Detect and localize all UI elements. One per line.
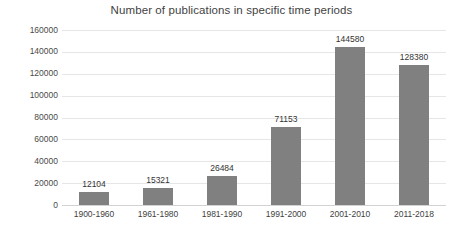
bar-value-label: 144580 [336,35,364,44]
y-axis-tick-label: 100000 [2,91,58,100]
y-axis-tick-label: 160000 [2,26,58,35]
bar-group: 144580 [318,30,382,205]
y-axis-tick-label: 0 [2,201,58,210]
chart-title: Number of publications in specific time … [0,4,463,16]
plot-area: 12104153212648471153144580128380 [62,30,446,205]
x-axis-tick-label: 1991-2000 [254,209,318,219]
bar-group: 12104 [62,30,126,205]
y-axis-tick-label: 80000 [2,113,58,122]
x-axis-tick-label: 2011-2018 [382,209,446,219]
bar-group: 15321 [126,30,190,205]
bar[interactable] [143,188,173,205]
y-axis-tick-label: 40000 [2,157,58,166]
y-axis-tick-label: 60000 [2,135,58,144]
bar-chart: Number of publications in specific time … [0,0,463,231]
bar-value-label: 12104 [82,180,106,189]
x-axis-tick-label: 1981-1990 [190,209,254,219]
bar[interactable] [335,47,365,205]
bar-group: 26484 [190,30,254,205]
x-axis: 1900-19601961-19801981-19901991-20002001… [62,209,446,227]
y-axis: 0200004000060000800001000001200001400001… [0,0,58,231]
bar[interactable] [207,176,237,205]
bar[interactable] [79,192,109,205]
x-axis-tick-label: 1900-1960 [62,209,126,219]
bar-group: 71153 [254,30,318,205]
bar-value-label: 15321 [146,176,170,185]
bar[interactable] [271,127,301,205]
bar-value-label: 128380 [400,53,428,62]
bar-group: 128380 [382,30,446,205]
bar[interactable] [399,65,429,205]
x-axis-tick-label: 2001-2010 [318,209,382,219]
y-axis-tick-label: 20000 [2,179,58,188]
x-axis-tick-label: 1961-1980 [126,209,190,219]
y-axis-tick-label: 120000 [2,69,58,78]
bar-value-label: 26484 [210,164,234,173]
bar-value-label: 71153 [274,115,297,124]
axis-baseline [62,205,446,206]
y-axis-tick-label: 140000 [2,47,58,56]
